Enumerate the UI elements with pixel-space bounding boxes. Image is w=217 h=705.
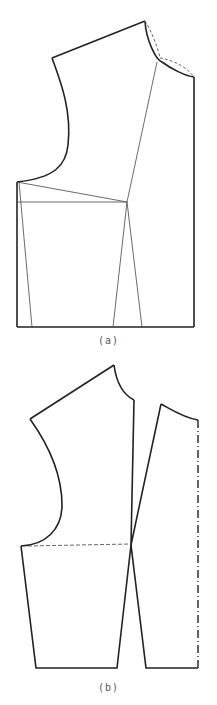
right-piece-neck bbox=[161, 404, 198, 420]
left-piece-outline bbox=[21, 400, 134, 668]
figure-b-diagram bbox=[0, 0, 217, 705]
left-piece-neck bbox=[114, 365, 134, 400]
left-piece-armhole bbox=[21, 419, 62, 546]
left-piece-shoulder bbox=[30, 365, 114, 419]
caption-b: (b) bbox=[0, 682, 217, 693]
waistline-dashed bbox=[28, 544, 131, 546]
right-piece-outline bbox=[131, 404, 198, 668]
